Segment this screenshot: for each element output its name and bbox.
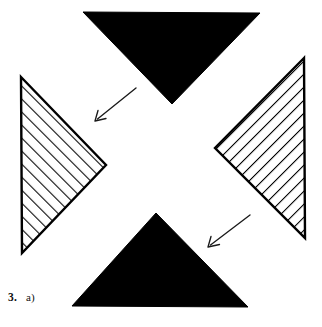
caption-part-label: a): [26, 292, 35, 303]
figure-caption: 3. a): [8, 292, 35, 304]
caption-number: 3.: [8, 292, 17, 304]
figure-canvas: [0, 0, 322, 327]
figure-root: 3. a): [0, 0, 322, 327]
